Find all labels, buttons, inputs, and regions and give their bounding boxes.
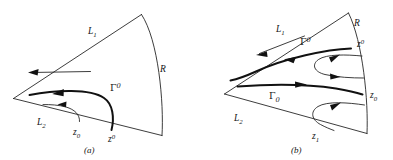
- ray-arrowhead-a: [28, 69, 39, 76]
- label-L2-b: L2: [233, 113, 243, 125]
- label-gamma-0-a: Γ0: [110, 82, 122, 93]
- ray-line-a: [32, 72, 91, 73]
- label-L1-a: L1: [87, 26, 97, 38]
- escape-ray-line-b: [260, 36, 305, 54]
- caption-panel-a: (a): [84, 145, 95, 155]
- escape-ray-arrowhead-b: [256, 51, 268, 57]
- panel-a: L1 L2 R Γ0 z0 z0 (a): [0, 0, 196, 160]
- gamma-sub-0-arrowhead-b: [295, 81, 307, 87]
- panel-b-sector-boundary: [225, 13, 368, 134]
- hook-upper-arrowhead-2-b: [330, 74, 341, 80]
- label-z-sub-0-b: z0: [369, 90, 378, 102]
- panel-b-hook-upper: [314, 55, 363, 80]
- arc-R-a: [142, 15, 163, 136]
- label-z-sup-0-a: z0: [107, 133, 116, 144]
- line-L1-a: [14, 15, 142, 99]
- label-R-a: R: [159, 64, 166, 74]
- hook-lower-curve-b: [313, 103, 365, 131]
- figure-root: L1 L2 R Γ0 z0 z0 (a): [0, 0, 393, 160]
- label-gamma-sub-0-b: Γ0: [269, 90, 281, 104]
- line-L1-b: [225, 13, 349, 94]
- label-z-sup-0-b: z0: [356, 38, 365, 49]
- panel-b-hook-lower: [313, 103, 365, 131]
- label-L1-b: L1: [275, 24, 285, 36]
- panel-a-inner-curve: [43, 102, 80, 122]
- caption-panel-b: (b): [291, 145, 302, 155]
- panel-b: L1 L2 R Γ0 Γ0 z0 z0 z1 (b): [196, 0, 393, 160]
- label-L2-a: L2: [36, 117, 46, 129]
- label-z-sub-0-a: z0: [72, 127, 81, 139]
- label-R-b: R: [353, 18, 360, 28]
- panel-b-contour-gamma-sub-0: [238, 81, 363, 94]
- line-L2-a: [14, 99, 163, 136]
- hook-upper-curve-b: [314, 55, 363, 78]
- line-L2-b: [225, 94, 368, 134]
- label-z-sub-1-b: z1: [311, 131, 319, 143]
- panel-a-upper-ray: [28, 69, 91, 76]
- label-gamma-sup-0-b: Γ0: [300, 36, 312, 47]
- arc-R-b: [349, 13, 368, 134]
- hook-lower-arrowhead-b: [330, 103, 341, 111]
